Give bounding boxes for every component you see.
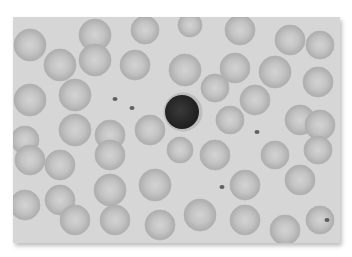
- red-blood-cell: [306, 206, 334, 234]
- platelet: [113, 97, 118, 101]
- red-blood-cell: [15, 145, 45, 175]
- platelet: [325, 218, 330, 222]
- red-blood-cell: [225, 17, 255, 45]
- red-blood-cell: [240, 85, 270, 115]
- red-blood-cell: [304, 136, 332, 164]
- red-blood-cell: [270, 215, 300, 243]
- red-blood-cell: [261, 141, 289, 169]
- red-blood-cell: [178, 17, 202, 37]
- red-blood-cell: [216, 106, 244, 134]
- red-blood-cell: [167, 137, 193, 163]
- red-blood-cell: [230, 170, 260, 200]
- red-blood-cell: [94, 174, 126, 206]
- platelet: [220, 185, 225, 189]
- red-blood-cell: [135, 115, 165, 145]
- red-blood-cell: [95, 140, 125, 170]
- red-blood-cell: [145, 210, 175, 240]
- red-blood-cell: [45, 150, 75, 180]
- red-blood-cell: [100, 205, 130, 235]
- red-blood-cell: [13, 190, 40, 220]
- red-blood-cell: [306, 31, 334, 59]
- red-blood-cell: [201, 74, 229, 102]
- red-blood-cell: [200, 140, 230, 170]
- platelet: [130, 106, 135, 110]
- lymphocyte-nucleus: [165, 95, 199, 129]
- red-blood-cell: [139, 169, 171, 201]
- red-blood-cell: [230, 205, 260, 235]
- red-blood-cell: [79, 44, 111, 76]
- red-blood-cell: [120, 50, 150, 80]
- red-blood-cell: [14, 84, 46, 116]
- red-blood-cell: [285, 165, 315, 195]
- red-blood-cell: [184, 199, 216, 231]
- red-blood-cell: [44, 49, 76, 81]
- lymphocyte: [164, 93, 203, 132]
- red-blood-cell: [60, 205, 90, 235]
- red-blood-cell: [59, 79, 91, 111]
- red-blood-cell: [275, 25, 305, 55]
- red-blood-cell: [305, 110, 335, 140]
- red-blood-cell: [259, 56, 291, 88]
- micrograph-frame: [13, 17, 340, 243]
- red-blood-cell: [131, 17, 159, 44]
- red-blood-cell: [14, 29, 46, 61]
- platelet: [255, 130, 260, 134]
- red-blood-cell: [303, 67, 333, 97]
- red-blood-cell: [169, 54, 201, 86]
- red-blood-cell: [59, 114, 91, 146]
- blood-smear-image: [13, 17, 340, 243]
